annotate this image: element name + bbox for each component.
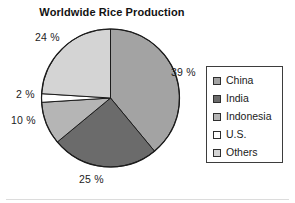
pie-slice-group: [42, 29, 180, 167]
legend-swatch-us: [213, 131, 221, 139]
slice-label-others: 24 %: [35, 31, 60, 43]
legend-swatch-others: [213, 149, 221, 157]
scan-artifact-line: [6, 199, 289, 200]
legend-label-us: U.S.: [226, 129, 246, 140]
slice-label-china: 39 %: [171, 66, 196, 78]
legend-item-china: China: [213, 72, 282, 89]
slice-label-indonesia: 10 %: [11, 114, 36, 126]
legend-item-india: India: [213, 90, 282, 107]
legend-item-us: U.S.: [213, 126, 282, 143]
legend-item-indonesia: Indonesia: [213, 108, 282, 125]
legend-label-indonesia: Indonesia: [226, 111, 272, 122]
legend-label-others: Others: [226, 147, 258, 158]
legend-swatch-china: [213, 77, 221, 85]
legend-label-india: India: [226, 93, 249, 104]
legend-label-china: China: [226, 75, 253, 86]
chart-legend: China India Indonesia U.S. Others: [206, 66, 283, 163]
legend-item-others: Others: [213, 144, 282, 161]
legend-swatch-indonesia: [213, 113, 221, 121]
pie-chart-figure: Worldwide Rice Production 39 % 25 % 10 %…: [0, 0, 295, 203]
slice-label-india: 25 %: [79, 173, 104, 185]
legend-swatch-india: [213, 95, 221, 103]
slice-label-us: 2 %: [16, 88, 35, 100]
